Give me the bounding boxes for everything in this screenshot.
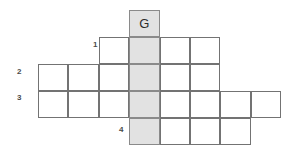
grid-cell-r1-c6[interactable] [190, 37, 220, 64]
grid-cell-r2-c5[interactable] [160, 64, 190, 91]
grid-cell-r1-c5[interactable] [160, 37, 190, 64]
grid-cell-r2-c1[interactable] [38, 64, 68, 91]
grid-cell-r3-c5[interactable] [160, 91, 190, 118]
grid-cell-r3-c3[interactable] [99, 91, 129, 118]
cell-letter-r0-c4: G [130, 11, 158, 36]
grid-cell-r4-c4[interactable] [129, 118, 159, 145]
grid-cell-r3-c4[interactable] [129, 91, 159, 118]
grid-cell-r3-c8[interactable] [251, 91, 281, 118]
grid-cell-r3-c2[interactable] [68, 91, 98, 118]
grid-cell-r4-c5[interactable] [160, 118, 190, 145]
clue-number-2: 2 [17, 68, 21, 76]
grid-cell-r4-c7[interactable] [220, 118, 250, 145]
grid-cell-r0-c4[interactable]: G [129, 10, 159, 37]
clue-number-3: 3 [17, 94, 21, 102]
grid-cell-r2-c3[interactable] [99, 64, 129, 91]
grid-cell-r3-c1[interactable] [38, 91, 68, 118]
grid-cell-r4-c6[interactable] [190, 118, 220, 145]
grid-cell-r1-c3[interactable] [99, 37, 129, 64]
grid-cell-r2-c4[interactable] [129, 64, 159, 91]
grid-cell-r3-c6[interactable] [190, 91, 220, 118]
grid-cell-r1-c4[interactable] [129, 37, 159, 64]
clue-number-4: 4 [119, 126, 123, 134]
grid-cell-r2-c2[interactable] [68, 64, 98, 91]
crossword-puzzle-grid: G1234 [0, 0, 285, 150]
grid-cell-r3-c7[interactable] [220, 91, 250, 118]
clue-number-1: 1 [93, 41, 97, 49]
grid-cell-r2-c6[interactable] [190, 64, 220, 91]
